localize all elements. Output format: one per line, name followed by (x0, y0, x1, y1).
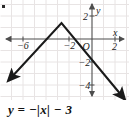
x-tick-label-neg6: −6 (17, 40, 29, 51)
absolute-value-curve (9, 23, 125, 99)
y-tick-label-neg4: −4 (79, 80, 91, 91)
graph-area: −6 −2 2 2 −2 −4 x y O (0, 0, 129, 100)
y-axis-label: y (95, 5, 101, 16)
equation-area: y = −|x| − 3 (0, 100, 129, 123)
x-tick-label-pos2: 2 (112, 41, 117, 52)
x-tick-label-neg2: −2 (64, 40, 76, 51)
y-tick-label-pos2: 2 (83, 11, 88, 22)
y-tick-label-neg2: −2 (79, 57, 91, 68)
equation-label: y = −|x| − 3 (8, 102, 72, 118)
x-axis-label: x (112, 27, 118, 38)
coordinate-plane-plot: −6 −2 2 2 −2 −4 x y O (0, 0, 129, 100)
origin-label: O (83, 41, 90, 52)
figure-screenshot: −6 −2 2 2 −2 −4 x y O y = −|x| − 3 (0, 0, 129, 123)
